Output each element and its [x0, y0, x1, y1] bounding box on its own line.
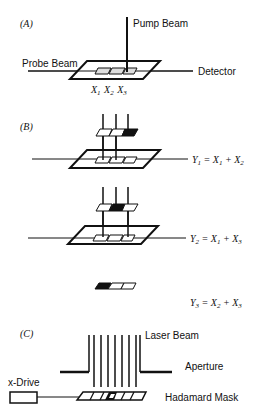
- element-x1: [95, 68, 111, 74]
- element-x3: [123, 68, 137, 74]
- panel-c: (C) Laser Beam Aperture x-Drive: [8, 328, 239, 403]
- element-x2: [109, 68, 125, 74]
- hadamard-mask-label: Hadamard Mask: [165, 392, 239, 403]
- panel-b: (B) Y1 = X1 + X2: [20, 114, 244, 310]
- step-2: Y2 = X1 + X3: [28, 187, 242, 246]
- x-drive-label: x-Drive: [8, 377, 40, 388]
- equation-y2: Y2 = X1 + X3: [190, 233, 242, 246]
- hadamard-diagram: (A) Pump Beam Probe Beam Detector X1 X2 …: [0, 0, 262, 418]
- laser-beam-label: Laser Beam: [145, 330, 199, 341]
- equation-y3: Y3 = X2 + X3: [190, 297, 242, 310]
- laser-beam-lines: [89, 335, 140, 387]
- step-3: Y3 = X2 + X3: [95, 283, 242, 310]
- panel-b-label: (B): [20, 121, 33, 133]
- x-labels: X1 X2 X3: [90, 84, 127, 97]
- mask-closed-3: [122, 129, 138, 136]
- step-1: Y1 = X1 + X2: [32, 114, 244, 168]
- pump-beam-label: Pump Beam: [133, 18, 188, 29]
- aperture-label: Aperture: [185, 361, 224, 372]
- panel-a: (A) Pump Beam Probe Beam Detector X1 X2 …: [20, 17, 236, 97]
- hadamard-mask: [77, 392, 146, 400]
- panel-a-label: (A): [20, 18, 33, 30]
- panel-c-label: (C): [20, 328, 34, 340]
- probe-beam-label: Probe Beam: [22, 58, 78, 69]
- detector-label: Detector: [198, 66, 236, 77]
- x-drive-box: [10, 392, 37, 403]
- equation-y1: Y1 = X1 + X2: [192, 154, 244, 167]
